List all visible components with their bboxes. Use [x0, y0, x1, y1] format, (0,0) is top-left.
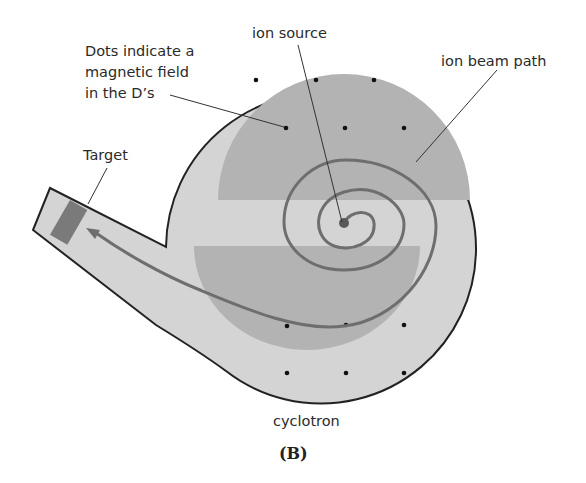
ion-source: [339, 218, 349, 228]
label-dots-line3: in the D’s: [85, 85, 155, 101]
label-ion-source: ion source: [252, 25, 327, 41]
label-dots-line2: magnetic field: [85, 64, 189, 80]
panel-label: (B): [279, 444, 308, 463]
label-dots-line1: Dots indicate a: [85, 43, 194, 59]
caption-cyclotron: cyclotron: [273, 413, 340, 429]
label-ion-beam-path: ion beam path: [441, 53, 546, 69]
label-target: Target: [82, 147, 128, 163]
leader-target: [88, 168, 107, 204]
upper-dee: [218, 74, 470, 200]
cyclotron-diagram: Dots indicate a magnetic field in the D’…: [0, 0, 586, 483]
